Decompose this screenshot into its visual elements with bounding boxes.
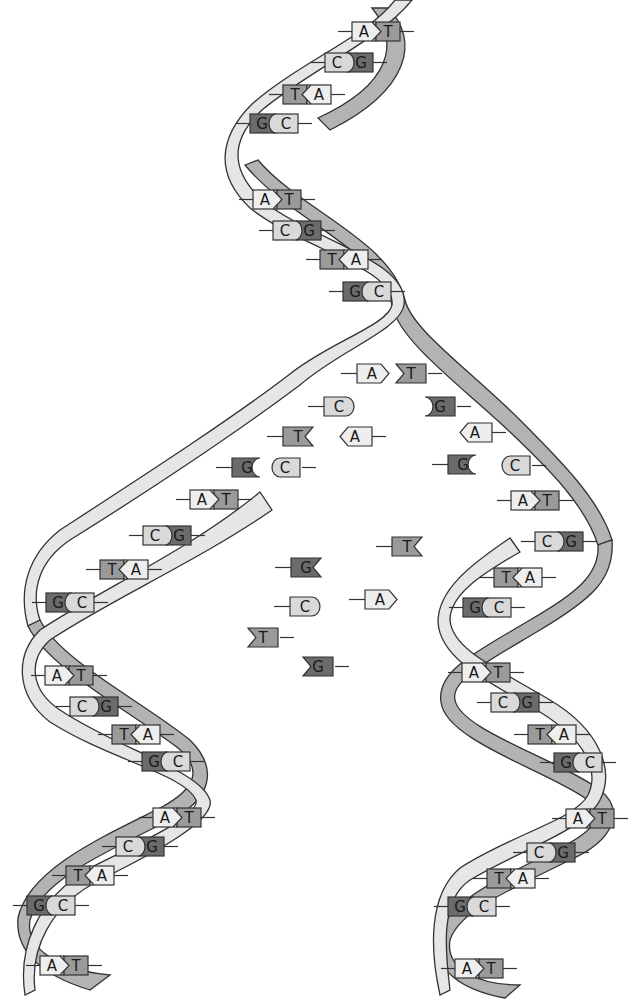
base-letter: A — [260, 191, 271, 209]
base-letter: C — [280, 459, 290, 477]
nucleotide-a: A — [341, 364, 389, 383]
base-letter: C — [542, 533, 552, 551]
base-letter: C — [585, 754, 595, 772]
nucleotide-g: G — [425, 397, 471, 416]
base-letter: A — [367, 365, 378, 383]
base-letter: A — [469, 664, 480, 682]
base-letter: T — [541, 492, 552, 510]
base-letter: A — [52, 667, 63, 685]
base-letter: T — [292, 428, 303, 446]
base-letter: T — [534, 726, 545, 744]
base-letter: C — [173, 753, 183, 771]
dna-replication-diagram: ATCGTAGCATCGTAGCATCGTAGCATCGTAGCATCGTAGC… — [0, 0, 643, 1001]
base-letter: C — [300, 598, 310, 616]
nucleotide-a: A — [349, 590, 397, 609]
base-letter: G — [52, 594, 64, 612]
nucleotide-g: G — [216, 458, 260, 477]
base-pair: GC — [449, 598, 525, 617]
base-letter: C — [123, 838, 133, 856]
base-letter: A — [197, 491, 208, 509]
base-letter: G — [300, 559, 312, 577]
nucleotide-g: G — [275, 558, 321, 577]
base-letter: T — [257, 629, 268, 647]
base-letter: T — [401, 538, 412, 556]
nucleotide-t: T — [248, 628, 294, 647]
base-letter: T — [492, 664, 503, 682]
base-letter: A — [350, 428, 361, 446]
base-letter: C — [479, 898, 489, 916]
base-letter: T — [289, 86, 300, 104]
base-letter: A — [462, 960, 473, 978]
base-letter: G — [521, 694, 533, 712]
base-letter: C — [534, 844, 544, 862]
base-letter: G — [256, 115, 268, 133]
base-letter: G — [560, 754, 572, 772]
base-letter: G — [557, 844, 569, 862]
base-letter: G — [303, 222, 315, 240]
base-letter: C — [334, 398, 344, 416]
base-letter: T — [485, 960, 496, 978]
base-letter: T — [382, 23, 393, 41]
base-letter: G — [173, 527, 185, 545]
base-letter: T — [72, 867, 83, 885]
base-letter: A — [131, 561, 142, 579]
base-letter: A — [525, 569, 536, 587]
base-letter: T — [493, 870, 504, 888]
base-letter: A — [518, 492, 529, 510]
base-letter: G — [33, 897, 45, 915]
base-letter: G — [565, 533, 577, 551]
base-pair: AT — [497, 491, 573, 510]
nucleotide-t: T — [396, 364, 442, 383]
parent-strand-back-2 — [245, 160, 612, 545]
nucleotide-t: T — [376, 537, 422, 556]
base-letter: A — [47, 957, 58, 975]
base-letter: C — [498, 694, 508, 712]
base-letter: A — [351, 251, 362, 269]
nucleotide-g: G — [432, 455, 476, 474]
base-letter: A — [97, 867, 108, 885]
nucleotide-a: A — [460, 423, 506, 442]
base-letter: C — [332, 54, 342, 72]
base-letter: A — [573, 810, 584, 828]
base-letter: T — [118, 726, 129, 744]
nucleotide-c: C — [308, 397, 354, 416]
base-letter: C — [150, 527, 160, 545]
base-letter: G — [457, 456, 469, 474]
base-letter: C — [374, 283, 384, 301]
base-letter: G — [148, 753, 160, 771]
base-letter: C — [494, 599, 504, 617]
base-letter: G — [349, 283, 361, 301]
base-letter: G — [434, 398, 446, 416]
base-letter: G — [100, 698, 112, 716]
base-letter: G — [312, 658, 324, 676]
base-letter: A — [359, 23, 370, 41]
base-letter: C — [510, 457, 520, 475]
nucleotide-c: C — [272, 458, 316, 477]
nucleotide-c: C — [274, 597, 320, 616]
base-pair: CG — [521, 532, 597, 551]
base-pair: AT — [176, 490, 252, 509]
base-letter: T — [75, 667, 86, 685]
base-letter: A — [160, 809, 171, 827]
base-letter: T — [596, 810, 607, 828]
base-letter: T — [283, 191, 294, 209]
base-letter: A — [559, 726, 570, 744]
base-letter: A — [143, 726, 154, 744]
base-letter: T — [500, 569, 511, 587]
base-letter: T — [220, 491, 231, 509]
base-letter: T — [106, 561, 117, 579]
base-letter: T — [326, 251, 337, 269]
base-letter: C — [58, 897, 68, 915]
base-letter: C — [77, 698, 87, 716]
nucleotide-t: T — [267, 427, 313, 446]
base-letter: T — [183, 809, 194, 827]
base-letter: T — [70, 957, 81, 975]
base-letter: G — [454, 898, 466, 916]
base-letter: A — [470, 424, 481, 442]
base-letter: C — [77, 594, 87, 612]
base-letter: G — [146, 838, 158, 856]
nucleotide-a: A — [340, 427, 386, 446]
base-letter: G — [355, 54, 367, 72]
base-letter: T — [405, 365, 416, 383]
base-letter: G — [241, 459, 253, 477]
